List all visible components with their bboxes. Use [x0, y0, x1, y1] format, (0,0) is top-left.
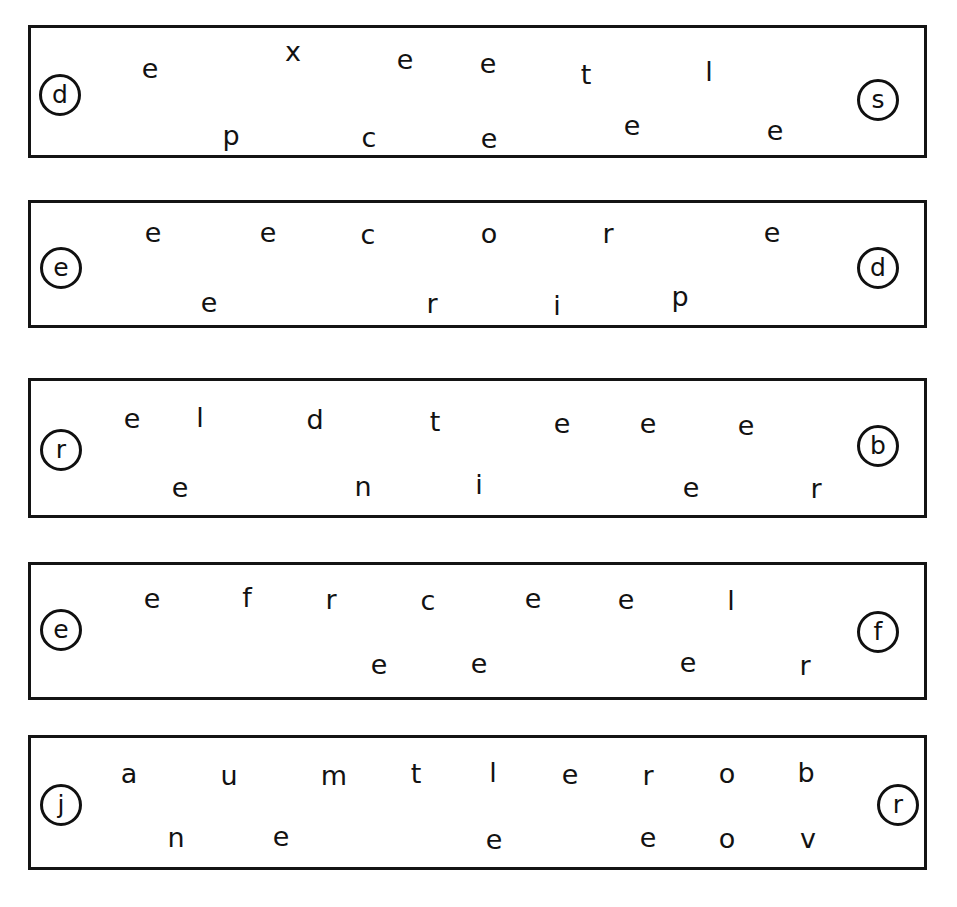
right-endcap-5: r	[877, 784, 919, 826]
scattered-letter: c	[362, 124, 377, 151]
scattered-letter: e	[371, 651, 388, 678]
scattered-letter: e	[124, 405, 141, 432]
endcap-label: j	[58, 792, 65, 817]
scattered-letter: e	[640, 410, 657, 437]
scattered-letter: e	[397, 46, 414, 73]
scattered-letter: r	[426, 290, 437, 317]
scattered-letter: v	[800, 825, 816, 852]
scattered-letter: e	[260, 219, 277, 246]
scattered-letter: e	[172, 474, 189, 501]
scattered-letter: l	[489, 759, 497, 786]
scattered-letter: a	[121, 760, 138, 787]
endcap-label: f	[874, 619, 883, 644]
endcap-label: s	[871, 87, 884, 112]
scattered-letter: t	[411, 760, 422, 787]
scattered-letter: o	[719, 825, 736, 852]
scattered-letter: o	[719, 760, 736, 787]
scattered-letter: l	[196, 404, 204, 431]
scattered-letter: r	[642, 762, 653, 789]
scattered-letter: e	[640, 824, 657, 851]
scattered-letter: e	[480, 50, 497, 77]
scattered-letter: p	[671, 283, 688, 310]
scattered-letter: r	[810, 475, 821, 502]
scattered-letter: e	[618, 586, 635, 613]
scattered-letter: e	[624, 112, 641, 139]
endcap-label: b	[870, 433, 886, 458]
scattered-letter: e	[273, 823, 290, 850]
scattered-letter: p	[222, 122, 239, 149]
scattered-letter: m	[321, 762, 347, 789]
endcap-label: r	[56, 437, 66, 462]
scattered-letter: e	[525, 585, 542, 612]
scattered-letter: e	[683, 474, 700, 501]
right-endcap-1: s	[857, 79, 899, 121]
scattered-letter: e	[738, 412, 755, 439]
left-endcap-5: j	[40, 784, 82, 826]
scattered-letter: o	[481, 220, 498, 247]
right-endcap-2: d	[857, 247, 899, 289]
scattered-letter: n	[167, 824, 184, 851]
scattered-letter: e	[481, 125, 498, 152]
right-endcap-4: f	[857, 611, 899, 653]
endcap-label: e	[53, 255, 68, 280]
scattered-letter: e	[145, 219, 162, 246]
left-endcap-4: e	[40, 609, 82, 651]
scattered-letter: r	[325, 586, 336, 613]
letter-box-4	[28, 562, 927, 700]
scattered-letter: d	[306, 406, 323, 433]
scattered-letter: e	[562, 761, 579, 788]
scattered-letter: e	[764, 219, 781, 246]
scattered-letter: t	[581, 61, 592, 88]
scattered-letter: e	[144, 585, 161, 612]
scattered-letter: e	[471, 650, 488, 677]
scattered-letter: r	[799, 652, 810, 679]
scattered-letter: f	[242, 584, 252, 611]
scattered-letter: r	[602, 220, 613, 247]
endcap-label: d	[52, 82, 68, 107]
left-endcap-2: e	[40, 247, 82, 289]
endcap-label: e	[53, 617, 68, 642]
scattered-letter: e	[201, 289, 218, 316]
scattered-letter: c	[361, 221, 376, 248]
right-endcap-3: b	[857, 425, 899, 467]
letter-box-1	[28, 25, 927, 158]
scattered-letter: l	[705, 58, 713, 85]
scattered-letter: i	[475, 471, 483, 498]
letter-box-5	[28, 735, 927, 870]
scattered-letter: b	[797, 759, 814, 786]
scattered-letter: l	[727, 587, 735, 614]
scattered-letter: x	[285, 38, 301, 65]
scattered-letter: i	[553, 292, 561, 319]
scattered-letter: c	[421, 587, 436, 614]
puzzle-canvas: exeetlpceeedseecoreeripedeldteeeenierrbe…	[0, 0, 957, 907]
endcap-label: r	[893, 792, 903, 817]
scattered-letter: e	[767, 117, 784, 144]
letter-box-2	[28, 200, 927, 328]
left-endcap-3: r	[40, 429, 82, 471]
scattered-letter: e	[486, 826, 503, 853]
scattered-letter: e	[142, 55, 159, 82]
scattered-letter: n	[354, 473, 371, 500]
scattered-letter: e	[554, 410, 571, 437]
endcap-label: d	[870, 255, 886, 280]
scattered-letter: e	[680, 649, 697, 676]
scattered-letter: t	[430, 408, 441, 435]
scattered-letter: u	[220, 762, 237, 789]
left-endcap-1: d	[39, 74, 81, 116]
